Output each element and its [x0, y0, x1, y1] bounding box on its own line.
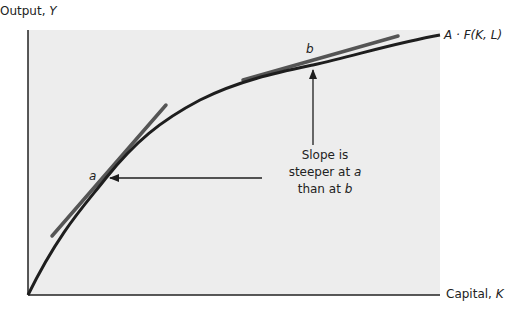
- y-axis-label-text: Output,: [0, 4, 49, 18]
- curve-label: A · F(K, L): [444, 28, 502, 42]
- annotation-line-2-var: a: [354, 165, 361, 179]
- annotation-line-1: Slope is: [266, 147, 384, 164]
- annotation-line-3: than at b: [266, 181, 384, 198]
- annotation-line-3-text: than at: [298, 182, 345, 196]
- y-axis-label: Output, Y: [0, 4, 57, 18]
- annotation-line-2: steeper at a: [266, 164, 384, 181]
- x-axis-label: Capital, K: [446, 287, 504, 301]
- production-function-diagram: [0, 0, 511, 313]
- x-axis-variable: K: [496, 287, 504, 301]
- annotation-line-3-var: b: [345, 182, 353, 196]
- tangent-at-b: [243, 36, 398, 80]
- y-axis-variable: Y: [49, 4, 56, 18]
- point-b-label: b: [306, 42, 314, 56]
- slope-annotation: Slope is steeper at a than at b: [266, 147, 384, 198]
- point-a-label: a: [89, 169, 96, 183]
- annotation-line-2-text: steeper at: [289, 165, 354, 179]
- x-axis-label-text: Capital,: [446, 287, 496, 301]
- tangent-at-a: [52, 105, 166, 236]
